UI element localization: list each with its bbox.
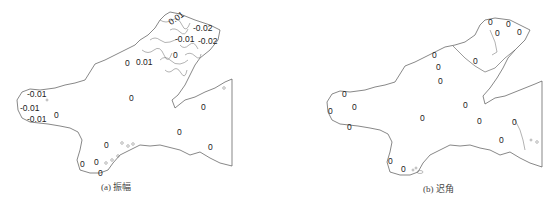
contour-label: 0.01: [136, 58, 153, 67]
contour-label: 0: [436, 63, 441, 72]
contour-label: 0: [401, 165, 406, 174]
region-outline: [327, 18, 542, 175]
lag-angle-contour-map: [275, 0, 550, 205]
contour-label: 0: [495, 29, 500, 38]
internal-boundary: [453, 46, 515, 72]
contour-label: 0: [506, 20, 511, 29]
caption-lag-angle: (b) 迟角: [423, 182, 454, 195]
contour-label: -0.01: [27, 115, 46, 124]
panel-lag-angle: [275, 0, 550, 205]
contour-label: -0.02: [193, 24, 212, 33]
contour-label: 0: [129, 94, 134, 103]
contour-label: 0: [488, 18, 493, 27]
contour-label: 0: [432, 51, 437, 60]
contour-label: 0: [125, 59, 130, 68]
small-contour-circles: [412, 139, 538, 174]
contour-label: 0: [177, 128, 182, 137]
contour-label: 0: [463, 101, 468, 110]
contour-label: 0: [517, 28, 522, 37]
contour-label: 0: [201, 103, 206, 112]
contour-label: 0: [388, 157, 393, 166]
contour-label: 0: [94, 158, 99, 167]
contour-label: -0.02: [198, 37, 217, 46]
contour-label: 0: [54, 111, 59, 120]
contour-label: 0: [80, 160, 85, 169]
contour-label: 0: [98, 169, 103, 178]
contour-label: 0: [477, 117, 482, 126]
contour-label: 0: [328, 107, 333, 116]
contour-label: 0: [420, 114, 425, 123]
contour-label: -0.01: [27, 90, 46, 99]
caption-amplitude: (a) 振幅: [101, 180, 131, 193]
contour-label: 0: [512, 118, 517, 127]
panel-amplitude: [0, 0, 275, 205]
contour-label: 0: [173, 51, 178, 60]
contour-label: 0: [208, 143, 213, 152]
contour-label: 0: [347, 123, 352, 132]
amplitude-contour-map: [0, 0, 275, 205]
contour-label: 0: [473, 57, 478, 66]
contour-label: -0.01: [20, 104, 39, 113]
contour-label: 0: [438, 77, 443, 86]
contour-label: 0: [342, 90, 347, 99]
contour-label: 0: [352, 103, 357, 112]
contour-label: 0: [104, 141, 109, 150]
contour-label: 0: [499, 136, 504, 145]
contour-label: -0.01: [175, 35, 194, 44]
